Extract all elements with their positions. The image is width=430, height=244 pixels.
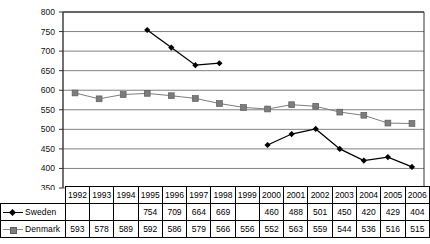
y-tick-label-450: 450 bbox=[41, 144, 55, 154]
table-header-year-1994: 1994 bbox=[114, 187, 138, 204]
table-cell: 536 bbox=[357, 221, 381, 238]
y-tick-label-650: 650 bbox=[41, 66, 55, 76]
table-header-year-1996: 1996 bbox=[162, 187, 186, 204]
table-cell: 552 bbox=[259, 221, 283, 238]
table-cell: 593 bbox=[65, 221, 89, 238]
table-header-year-1993: 1993 bbox=[90, 187, 114, 204]
chart-plot-area: 800750700650600550500450400350 bbox=[0, 0, 430, 190]
data-point-denmark-2006 bbox=[409, 121, 415, 127]
y-tick-label-550: 550 bbox=[41, 105, 55, 115]
denmark-legend-line bbox=[3, 229, 23, 230]
chart-page: 800750700650600550500450400350 199219931… bbox=[0, 0, 430, 244]
data-point-denmark-1999 bbox=[241, 105, 247, 111]
table-row: Sweden 754709664669460488501450420429404 bbox=[1, 204, 430, 221]
data-point-sweden-2004 bbox=[361, 158, 367, 164]
table-header-year-2003: 2003 bbox=[332, 187, 356, 204]
data-point-denmark-1992 bbox=[72, 90, 78, 96]
table-cell: 515 bbox=[405, 221, 429, 238]
table-header-year-2000: 2000 bbox=[259, 187, 283, 204]
data-point-sweden-2006 bbox=[409, 164, 415, 170]
legend-item-sweden: Sweden bbox=[1, 204, 66, 221]
table-cell: 559 bbox=[308, 221, 332, 238]
legend-label-sweden: Sweden bbox=[25, 207, 56, 217]
y-tick-label-800: 800 bbox=[41, 7, 55, 17]
table-cell: 563 bbox=[284, 221, 308, 238]
y-tick-label-400: 400 bbox=[41, 163, 55, 173]
table-header-year-1995: 1995 bbox=[138, 187, 162, 204]
table-header-year-2006: 2006 bbox=[405, 187, 429, 204]
data-point-denmark-2000 bbox=[265, 106, 271, 112]
table-row: Denmark 59357858959258657956655655256355… bbox=[1, 221, 430, 238]
table-cell bbox=[235, 204, 259, 221]
table-cell: 592 bbox=[138, 221, 162, 238]
table-cell: 664 bbox=[187, 204, 211, 221]
table-cell: 460 bbox=[259, 204, 283, 221]
series-line-sweden bbox=[147, 30, 219, 65]
legend-item-denmark: Denmark bbox=[1, 221, 66, 238]
data-point-denmark-1994 bbox=[120, 92, 126, 98]
table-corner-cell bbox=[1, 187, 66, 204]
data-point-denmark-2005 bbox=[385, 120, 391, 126]
table-header-year-2005: 2005 bbox=[381, 187, 405, 204]
table-header-year-1998: 1998 bbox=[211, 187, 235, 204]
table-cell: 429 bbox=[381, 204, 405, 221]
y-tick-label-750: 750 bbox=[41, 27, 55, 37]
data-point-sweden-2005 bbox=[385, 154, 391, 160]
data-point-sweden-1998 bbox=[216, 60, 222, 66]
data-point-denmark-1996 bbox=[168, 93, 174, 99]
table-cell: 566 bbox=[211, 221, 235, 238]
square-marker-icon bbox=[10, 227, 17, 234]
sweden-legend-line bbox=[3, 212, 23, 213]
line-chart-svg: 800750700650600550500450400350 bbox=[0, 0, 430, 190]
table-cell bbox=[114, 204, 138, 221]
table-header-row: 1992199319941995199619971998199920002001… bbox=[1, 187, 430, 204]
table-cell: 578 bbox=[90, 221, 114, 238]
table-cell: 420 bbox=[357, 204, 381, 221]
table-header-year-1997: 1997 bbox=[187, 187, 211, 204]
data-point-denmark-1998 bbox=[217, 101, 223, 107]
data-point-sweden-2001 bbox=[289, 131, 295, 137]
table-cell: 488 bbox=[284, 204, 308, 221]
table-cell bbox=[90, 204, 114, 221]
table-cell: 579 bbox=[187, 221, 211, 238]
diamond-marker-icon bbox=[9, 209, 16, 216]
y-tick-label-600: 600 bbox=[41, 85, 55, 95]
data-point-denmark-1995 bbox=[144, 90, 150, 96]
data-point-denmark-1993 bbox=[96, 96, 102, 102]
table-cell: 589 bbox=[114, 221, 138, 238]
table-header-year-2001: 2001 bbox=[284, 187, 308, 204]
data-table: 1992199319941995199619971998199920002001… bbox=[0, 186, 430, 238]
y-tick-label-700: 700 bbox=[41, 46, 55, 56]
table-cell: 669 bbox=[211, 204, 235, 221]
data-point-denmark-1997 bbox=[192, 96, 198, 102]
data-table-container: 1992199319941995199619971998199920002001… bbox=[0, 186, 430, 238]
table-header-year-1992: 1992 bbox=[65, 187, 89, 204]
y-tick-label-500: 500 bbox=[41, 124, 55, 134]
data-point-sweden-2000 bbox=[264, 142, 270, 148]
table-cell: 404 bbox=[405, 204, 429, 221]
table-cell: 450 bbox=[332, 204, 356, 221]
table-header-year-1999: 1999 bbox=[235, 187, 259, 204]
table-cell: 516 bbox=[381, 221, 405, 238]
table-cell: 709 bbox=[162, 204, 186, 221]
table-header-year-2002: 2002 bbox=[308, 187, 332, 204]
table-cell: 501 bbox=[308, 204, 332, 221]
data-point-denmark-2001 bbox=[289, 102, 295, 108]
legend-label-denmark: Denmark bbox=[25, 224, 60, 234]
data-point-denmark-2004 bbox=[361, 112, 367, 118]
table-header-year-2004: 2004 bbox=[357, 187, 381, 204]
data-point-denmark-2002 bbox=[313, 103, 319, 109]
table-cell bbox=[65, 204, 89, 221]
table-cell: 754 bbox=[138, 204, 162, 221]
table-cell: 586 bbox=[162, 221, 186, 238]
data-point-denmark-2003 bbox=[337, 109, 343, 115]
table-cell: 556 bbox=[235, 221, 259, 238]
table-cell: 544 bbox=[332, 221, 356, 238]
